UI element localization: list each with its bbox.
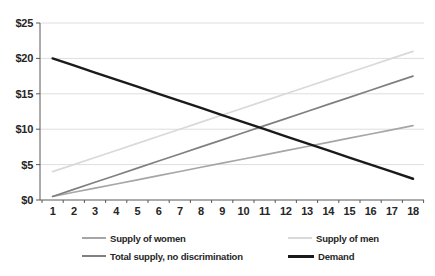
y-axis-label: $15: [16, 88, 34, 100]
x-axis-label: 3: [92, 205, 98, 217]
legend-item-demand: Demand: [288, 249, 354, 263]
legend-swatch-supply-of-women: [82, 237, 106, 239]
y-axis-label: $25: [16, 17, 34, 29]
y-axis-label: $20: [16, 52, 34, 64]
wage-quantity-chart: $0$5$10$15$20$25123456789101112131415161…: [0, 0, 435, 276]
y-axis-label: $10: [16, 123, 34, 135]
legend-item-total-supply-no-discrimination: Total supply, no discrimination: [82, 249, 243, 263]
x-axis-label: 15: [344, 205, 356, 217]
x-axis-label: 18: [407, 205, 419, 217]
series-line-supply-of-men: [53, 51, 413, 171]
x-axis-label: 4: [113, 205, 120, 217]
x-axis-label: 8: [198, 205, 204, 217]
x-axis-label: 5: [134, 205, 140, 217]
legend-label: Supply of men: [316, 233, 379, 244]
x-axis-label: 13: [301, 205, 313, 217]
x-axis-label: 10: [238, 205, 250, 217]
legend-swatch-supply-of-men: [288, 237, 312, 239]
x-axis-label: 9: [219, 205, 225, 217]
x-axis-label: 2: [71, 205, 77, 217]
y-axis-label: $0: [21, 194, 33, 206]
x-axis-label: 11: [259, 205, 270, 217]
legend-swatch-demand: [288, 255, 314, 258]
x-axis-label: 6: [156, 205, 162, 217]
legend-label: Demand: [318, 251, 354, 262]
legend-swatch-total-supply-no-discrimination: [82, 255, 106, 257]
legend-item-supply-of-men: Supply of men: [288, 231, 379, 245]
legend-label: Supply of women: [110, 233, 186, 244]
y-axis-label: $5: [21, 159, 33, 171]
x-axis-label: 14: [322, 205, 335, 217]
x-axis-label: 7: [177, 205, 183, 217]
x-axis-label: 17: [386, 205, 398, 217]
x-axis-label: 16: [365, 205, 377, 217]
line-chart-canvas: $0$5$10$15$20$25123456789101112131415161…: [0, 0, 435, 224]
x-axis-label: 12: [280, 205, 292, 217]
legend-label: Total supply, no discrimination: [110, 251, 243, 262]
x-axis-label: 1: [50, 205, 56, 217]
legend-item-supply-of-women: Supply of women: [82, 231, 186, 245]
